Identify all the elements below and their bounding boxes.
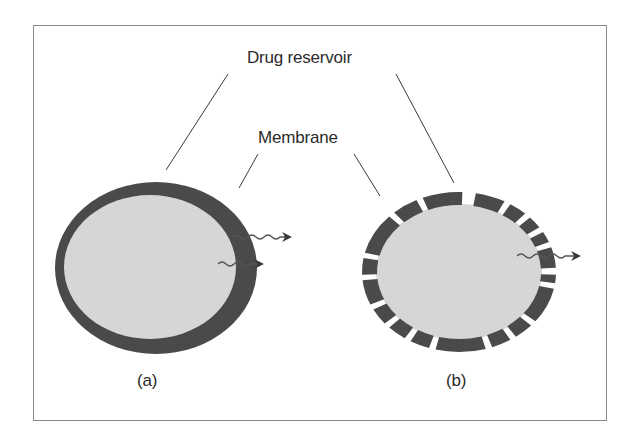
caption-panel-b: (b) [446, 371, 466, 391]
caption-panel-a: (a) [137, 371, 157, 391]
panel-b [362, 192, 579, 352]
leader-drug-reservoir-a [166, 74, 228, 170]
membrane-segment [540, 274, 556, 283]
label-drug-reservoir: Drug reservoir [247, 48, 352, 68]
membrane-segment [362, 258, 378, 275]
leader-membrane-a [239, 154, 258, 188]
drug-reservoir-a [64, 195, 236, 339]
leader-drug-reservoir-b [396, 74, 454, 183]
panel-a [55, 182, 290, 354]
leader-membrane-b [354, 154, 380, 196]
label-membrane: Membrane [258, 128, 338, 148]
